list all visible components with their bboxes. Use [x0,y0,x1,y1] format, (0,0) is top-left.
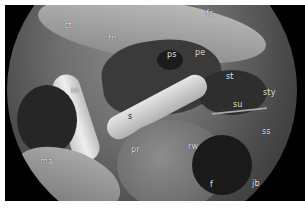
label-ct: ct [64,22,72,30]
label-fn: fn [108,35,116,43]
label-sty: sty [263,89,276,97]
label-pr: pr [131,146,140,154]
endoscope-circular-view [7,5,297,201]
label-rw: rw [188,143,198,151]
left-dark-region [17,85,77,155]
endoscope-image-frame [5,5,305,201]
label-ss: ss [262,128,271,136]
label-su: su [233,101,243,109]
round-window-niche [192,135,252,195]
label-st: st [226,73,234,81]
label-ps: ps [167,51,177,59]
label-fs: fs [206,10,213,18]
label-ma: ma [40,158,53,166]
label-pe: pe [195,49,205,57]
label-f: f [210,181,213,189]
label-jb: jb [252,180,260,188]
label-s: s [128,113,132,121]
label-in: in [71,87,79,95]
